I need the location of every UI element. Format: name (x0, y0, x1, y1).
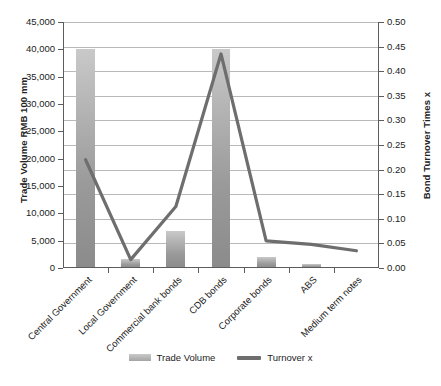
y-axis-left-tick-label: 45,000 (26, 17, 55, 27)
x-axis-tick (289, 268, 290, 273)
y-axis-right-tick (379, 47, 384, 48)
x-axis-tick (108, 268, 109, 273)
y-axis-left-tick-label: 15,000 (26, 181, 55, 191)
legend-item-turnover: Turnover x (237, 352, 312, 363)
y-axis-right-tick-label: 0.10 (387, 214, 406, 224)
y-axis-right-tick (379, 96, 384, 97)
y-axis-left-tick-label: 20,000 (26, 154, 55, 164)
y-axis-right-tick-label: 0.30 (387, 116, 406, 126)
y-axis-right-tick (379, 22, 384, 23)
y-axis-left-tick-label: 40,000 (26, 45, 55, 55)
y-axis-right-tick-label: 0.15 (387, 189, 406, 199)
x-axis-tick (198, 268, 199, 273)
y-axis-right-tick-label: 0.35 (387, 91, 406, 101)
y-axis-left-tick-label: 0 (50, 263, 55, 273)
y-axis-right-tick (379, 268, 384, 269)
x-axis-label: Medium term notes (215, 274, 364, 386)
y-axis-right-tick-label: 0.00 (387, 263, 406, 273)
y-axis-right-tick (379, 145, 384, 146)
x-axis-tick (244, 268, 245, 273)
y-axis-left-tick-label: 25,000 (26, 127, 55, 137)
y-axis-right-tick (379, 243, 384, 244)
y-axis-right-tick (379, 170, 384, 171)
y-axis-right-title: Bond Turnover Times x (421, 66, 432, 226)
legend-item-trade-volume: Trade Volume (129, 352, 216, 363)
x-axis-label: Corporate bonds (125, 274, 274, 386)
y-axis-right-tick-label: 0.50 (387, 17, 406, 27)
y-axis-left-tick-label: 5,000 (31, 236, 55, 246)
y-axis-right-tick (379, 71, 384, 72)
chart-legend: Trade Volume Turnover x (0, 352, 441, 363)
y-axis-left-tick-label: 30,000 (26, 99, 55, 109)
y-axis-left-tick-label: 35,000 (26, 72, 55, 82)
y-axis-left-tick (58, 268, 63, 269)
x-axis-label: Commercial bank bonds (34, 274, 183, 386)
chart-container: Trade Volume RMB 100 mm Bond Turnover Ti… (0, 0, 441, 386)
y-axis-right-tick-label: 0.45 (387, 42, 406, 52)
plot-frame (63, 22, 379, 268)
y-axis-right-tick (379, 194, 384, 195)
y-axis-right-tick-label: 0.25 (387, 140, 406, 150)
y-axis-right-tick-label: 0.20 (387, 165, 406, 175)
x-axis-tick (334, 268, 335, 273)
y-axis-right-tick (379, 120, 384, 121)
x-axis-label: CDB bonds (80, 274, 229, 386)
x-axis-tick (153, 268, 154, 273)
legend-label-trade-volume: Trade Volume (157, 352, 216, 363)
y-axis-right-tick-label: 0.40 (387, 66, 406, 76)
legend-label-turnover: Turnover x (267, 352, 312, 363)
line-swatch-icon (237, 356, 261, 360)
y-axis-right-tick (379, 219, 384, 220)
plot-area: 05,00010,00015,00020,00025,00030,00035,0… (63, 22, 379, 268)
y-axis-left-tick-label: 10,000 (26, 209, 55, 219)
y-axis-left-title: Trade Volume RMB 100 mm (18, 60, 29, 220)
y-axis-right-tick-label: 0.05 (387, 239, 406, 249)
x-axis-label: ABS (170, 274, 319, 386)
bar-swatch-icon (129, 354, 151, 361)
